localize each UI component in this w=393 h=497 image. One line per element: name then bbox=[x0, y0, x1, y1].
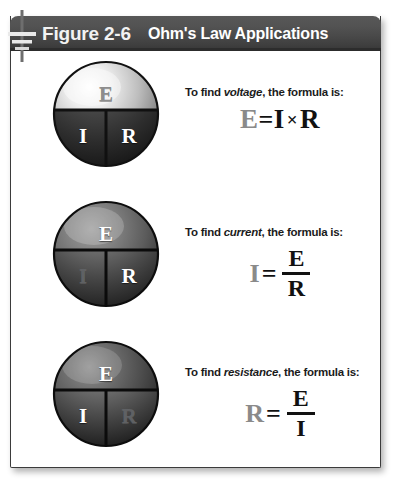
caption-suffix: , the formula is: bbox=[278, 366, 359, 378]
fraction-denominator: R bbox=[283, 276, 310, 301]
formula-voltage: E=I×R bbox=[185, 106, 375, 133]
figure-panel: Figure 2-6 Ohm's Law Applications bbox=[0, 0, 393, 497]
caption-prefix: To find bbox=[185, 226, 224, 238]
formula-lhs: R bbox=[245, 401, 264, 427]
formula-fraction: E R bbox=[282, 246, 310, 301]
caption-voltage: To find voltage, the formula is: bbox=[185, 86, 375, 98]
formula-equals: = bbox=[258, 105, 273, 134]
caption-term: voltage bbox=[224, 86, 263, 98]
figure-header-bar: Figure 2-6 Ohm's Law Applications bbox=[10, 16, 381, 51]
formula-equals: = bbox=[266, 401, 281, 427]
fraction-numerator: E bbox=[283, 246, 309, 271]
formula-lhs: I bbox=[250, 261, 260, 287]
ground-icon bbox=[2, 10, 42, 62]
row-voltage: E I R To find voltage, the formula is: E… bbox=[0, 52, 371, 184]
ohms-law-wheel-voltage: E I R bbox=[52, 60, 160, 168]
caption-current: To find current, the formula is: bbox=[185, 226, 375, 238]
ohms-law-wheel-resistance: E I R bbox=[52, 340, 160, 448]
fraction-denominator: I bbox=[291, 416, 310, 441]
row-current: E I R To find current, the formula is: I… bbox=[0, 192, 371, 324]
caption-prefix: To find bbox=[185, 366, 224, 378]
formula-resistance: R= E I bbox=[185, 386, 375, 441]
formula-current: I= E R bbox=[185, 246, 375, 301]
formula-fraction: E I bbox=[287, 386, 315, 441]
figure-number-label: Figure 2-6 bbox=[42, 23, 131, 45]
ohms-law-wheel-current: E I R bbox=[52, 200, 160, 308]
caption-suffix: , the formula is: bbox=[262, 86, 343, 98]
caption-resistance: To find resistance, the formula is: bbox=[185, 366, 375, 378]
caption-prefix: To find bbox=[185, 86, 224, 98]
formula-operand-a: I bbox=[274, 104, 285, 134]
formula-operator: × bbox=[285, 109, 300, 130]
caption-suffix: , the formula is: bbox=[262, 226, 343, 238]
caption-term: current bbox=[224, 226, 262, 238]
row-resistance: E I R To find resistance, the formula is… bbox=[0, 332, 371, 464]
fraction-numerator: E bbox=[288, 386, 314, 411]
formula-equals: = bbox=[262, 261, 277, 287]
formula-lhs: E bbox=[240, 104, 259, 134]
figure-header-content: Figure 2-6 Ohm's Law Applications bbox=[10, 16, 381, 51]
figure-title: Ohm's Law Applications bbox=[148, 25, 328, 43]
caption-term: resistance bbox=[224, 366, 278, 378]
formula-operand-b: R bbox=[300, 104, 320, 134]
